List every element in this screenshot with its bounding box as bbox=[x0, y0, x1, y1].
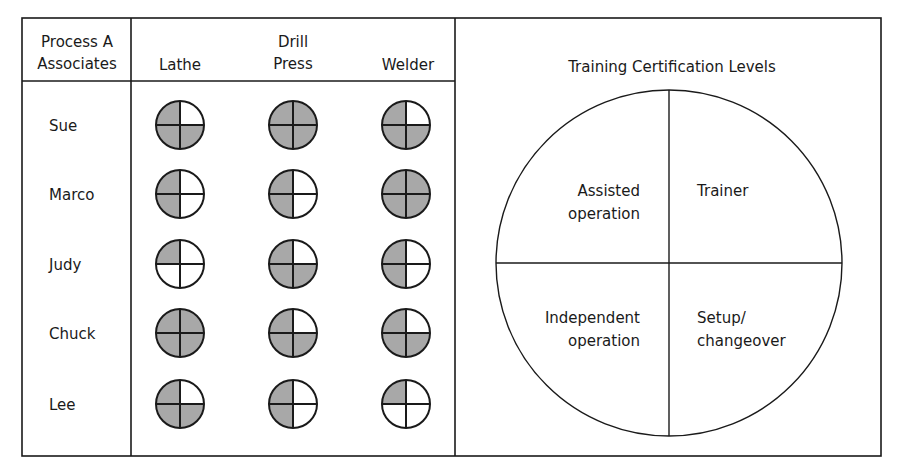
certification-icon-marco-drill-press bbox=[269, 170, 317, 218]
legend-bottom-right-line2: changeover bbox=[697, 332, 786, 350]
column-header-drill-press-line2: Press bbox=[273, 55, 313, 73]
certification-icon-lee-lathe bbox=[156, 380, 204, 428]
legend: Training Certification Levels Assisted o… bbox=[496, 58, 842, 436]
certification-icon-sue-welder bbox=[382, 101, 430, 149]
legend-title: Training Certification Levels bbox=[567, 58, 776, 76]
column-header-drill-press-line1: Drill bbox=[278, 33, 308, 51]
associates-header-line1: Process A bbox=[41, 33, 114, 51]
certification-icon-chuck-lathe bbox=[156, 309, 204, 357]
certification-icon-judy-lathe bbox=[156, 240, 204, 288]
certification-icon-lee-welder bbox=[382, 380, 430, 428]
associate-name-sue: Sue bbox=[49, 117, 77, 135]
certification-icon-marco-lathe bbox=[156, 170, 204, 218]
associate-name-marco: Marco bbox=[49, 186, 94, 204]
associate-name-lee: Lee bbox=[49, 396, 76, 414]
certification-icon-sue-lathe bbox=[156, 101, 204, 149]
certification-icon-lee-drill-press bbox=[269, 380, 317, 428]
legend-top-left-line1: Assisted bbox=[577, 182, 640, 200]
certification-icon-judy-drill-press bbox=[269, 240, 317, 288]
row-names: Sue Marco Judy Chuck Lee bbox=[48, 117, 96, 414]
legend-bottom-left-line2: operation bbox=[568, 332, 640, 350]
legend-top-right-line1: Trainer bbox=[696, 182, 749, 200]
certification-icon-chuck-welder bbox=[382, 309, 430, 357]
certification-icon-sue-drill-press bbox=[269, 101, 317, 149]
certification-icon-judy-welder bbox=[382, 240, 430, 288]
column-header-welder: Welder bbox=[382, 56, 435, 74]
outer-frame bbox=[22, 18, 881, 456]
associate-name-judy: Judy bbox=[48, 256, 81, 274]
legend-bottom-right-line1: Setup/ bbox=[697, 309, 747, 327]
associates-header-line2: Associates bbox=[37, 55, 117, 73]
certification-cells bbox=[156, 101, 430, 428]
column-header-lathe: Lathe bbox=[159, 56, 201, 74]
certification-icon-chuck-drill-press bbox=[269, 309, 317, 357]
legend-bottom-left-line1: Independent bbox=[545, 309, 640, 327]
associate-name-chuck: Chuck bbox=[49, 325, 96, 343]
training-matrix-diagram: Process A Associates Lathe Drill Press W… bbox=[0, 0, 898, 467]
table-header: Process A Associates Lathe Drill Press W… bbox=[37, 33, 435, 74]
legend-top-left-line2: operation bbox=[568, 205, 640, 223]
certification-icon-marco-welder bbox=[382, 170, 430, 218]
